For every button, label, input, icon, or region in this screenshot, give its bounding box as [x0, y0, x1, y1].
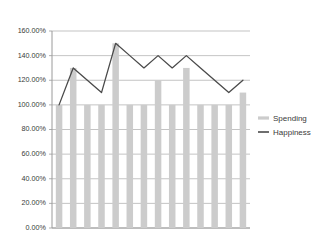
- y-axis-tick-labels: 0.00%20.00%40.00%60.00%80.00%100.00%120.…: [18, 26, 47, 232]
- line-series-happiness: [59, 43, 243, 105]
- bar: [112, 43, 119, 228]
- bar: [98, 105, 105, 228]
- bar-series-spending: [56, 43, 246, 228]
- y-axis-tick-label: 80.00%: [22, 124, 47, 133]
- legend-swatch-bar-icon: [258, 116, 269, 119]
- bar: [141, 105, 148, 228]
- y-axis-tick-label: 160.00%: [18, 26, 47, 35]
- legend-item-label: Spending: [273, 114, 307, 123]
- chart-legend: SpendingHappiness: [258, 114, 311, 137]
- y-axis-tick-label: 120.00%: [18, 75, 47, 84]
- bar: [197, 105, 204, 228]
- chart-container: 0.00%20.00%40.00%60.00%80.00%100.00%120.…: [0, 0, 320, 250]
- y-axis-tick-label: 20.00%: [22, 198, 47, 207]
- bar: [240, 93, 247, 228]
- y-axis-tick-label: 140.00%: [18, 51, 47, 60]
- y-axis-tick-label: 100.00%: [18, 100, 47, 109]
- bar: [70, 68, 77, 228]
- bar: [56, 105, 63, 228]
- y-axis-tick-label: 60.00%: [22, 149, 47, 158]
- bar: [169, 105, 176, 228]
- bar: [84, 105, 91, 228]
- bar: [226, 105, 233, 228]
- legend-item-label: Happiness: [273, 128, 311, 137]
- bar: [127, 105, 134, 228]
- y-axis-tick-label: 0.00%: [26, 223, 47, 232]
- gridlines: [49, 31, 250, 228]
- y-axis-tick-label: 40.00%: [22, 174, 47, 183]
- bar: [183, 68, 190, 228]
- chart-plot: 0.00%20.00%40.00%60.00%80.00%100.00%120.…: [0, 0, 320, 250]
- bar: [211, 105, 218, 228]
- bar: [155, 80, 162, 228]
